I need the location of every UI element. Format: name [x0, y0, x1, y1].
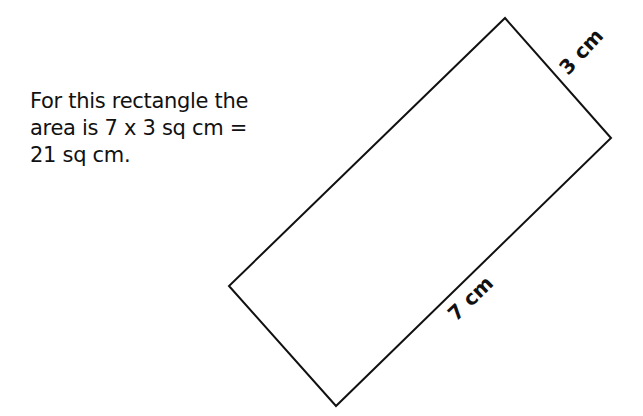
- rotated-rectangle: [229, 18, 611, 406]
- short-side-label: 3 cm: [554, 24, 608, 80]
- rectangle-diagram: 3 cm 7 cm: [0, 0, 643, 416]
- long-side-label: 7 cm: [443, 271, 498, 325]
- diagram-canvas: For this rectangle the area is 7 x 3 sq …: [0, 0, 643, 416]
